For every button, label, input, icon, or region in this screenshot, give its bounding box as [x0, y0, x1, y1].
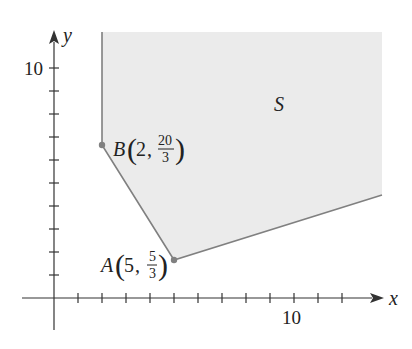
- region-label: S: [274, 93, 284, 115]
- y-axis: y 10: [24, 24, 72, 330]
- point-a-comma: ,: [135, 254, 140, 276]
- point-a-x: 5: [124, 254, 134, 276]
- point-b-comma: ,: [147, 138, 152, 160]
- y-axis-arrow-icon: [49, 30, 59, 44]
- y-tick-label-10: 10: [24, 58, 43, 79]
- point-a-marker: [171, 257, 177, 263]
- x-axis-arrow-icon: [370, 293, 384, 303]
- point-a-y-numerator: 5: [149, 249, 156, 264]
- feasible-region-diagram: x 10 y 10 S B ( 2 , 20 3 ): [0, 0, 412, 349]
- point-b-name: B: [113, 138, 125, 160]
- point-a-name: A: [99, 254, 114, 276]
- point-b-marker: [99, 142, 105, 148]
- point-a-y-denominator: 3: [149, 266, 156, 281]
- point-b-y-numerator: 20: [158, 133, 172, 148]
- point-a-close-paren: ): [158, 248, 168, 282]
- y-axis-label: y: [61, 24, 72, 47]
- x-axis-label: x: [388, 287, 398, 309]
- x-axis: x 10: [22, 287, 398, 328]
- x-tick-label-10: 10: [282, 307, 301, 328]
- point-b-x: 2: [136, 138, 146, 160]
- point-b-close-paren: ): [175, 132, 185, 166]
- point-b-y-denominator: 3: [162, 150, 169, 165]
- point-a: A ( 5 , 5 3 ): [99, 248, 177, 282]
